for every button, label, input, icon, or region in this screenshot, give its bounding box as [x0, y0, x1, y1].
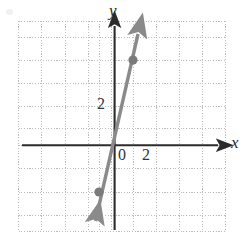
linear-function-graph: y x 0 2 2: [0, 0, 244, 234]
plot-point-upper: [128, 55, 137, 64]
grid-lines: [19, 21, 226, 231]
y-axis-label: y: [109, 2, 117, 19]
plot-point-lower: [94, 187, 103, 196]
x-tick-label-2: 2: [142, 147, 150, 163]
coordinate-plane-svg: [0, 0, 244, 234]
origin-label: 0: [118, 147, 126, 163]
y-tick-label-2: 2: [97, 96, 105, 112]
x-axis-label: x: [231, 134, 239, 151]
